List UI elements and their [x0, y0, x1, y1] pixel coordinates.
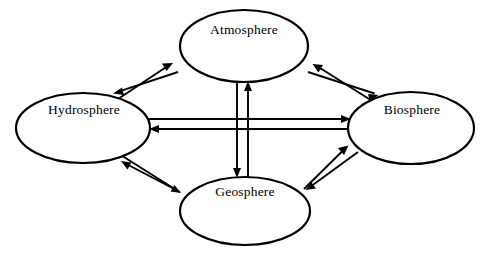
- connection-atmosphere-biosphere: [308, 64, 379, 104]
- node-hydrosphere[interactable]: Hydrosphere: [16, 93, 150, 163]
- arrow-geosphere-to-hydrosphere-head: [121, 161, 132, 170]
- node-hydrosphere-label: Hydrosphere: [48, 102, 120, 117]
- arrow-atmosphere-to-hydrosphere-head: [113, 88, 124, 96]
- node-atmosphere[interactable]: Atmosphere: [180, 10, 308, 82]
- diagram-canvas: Atmosphere Hydrosphere Biosphere Geosphe…: [0, 0, 490, 260]
- arrow-atmosphere-to-hydrosphere-line: [117, 72, 178, 92]
- connection-hydrosphere-biosphere: [148, 115, 351, 133]
- node-biosphere[interactable]: Biosphere: [348, 92, 474, 164]
- arrow-hydrosphere-to-geosphere-head: [171, 185, 182, 193]
- node-atmosphere-label: Atmosphere: [210, 22, 278, 37]
- arrow-biosphere-to-geosphere-line: [310, 152, 358, 187]
- connection-hydrosphere-atmosphere: [112, 63, 178, 103]
- spheres-diagram: Atmosphere Hydrosphere Biosphere Geosphe…: [0, 0, 490, 260]
- node-geosphere-label: Geosphere: [215, 184, 275, 199]
- arrow-hydrosphere-to-geosphere-line: [116, 152, 177, 191]
- connection-hydrosphere-geosphere: [116, 152, 181, 193]
- arrow-atmosphere-to-biosphere-line: [308, 72, 375, 94]
- arrow-geosphere-to-biosphere-line: [304, 149, 345, 189]
- node-geosphere[interactable]: Geosphere: [180, 177, 310, 245]
- node-atmosphere-ellipse[interactable]: [180, 10, 308, 82]
- connection-geosphere-biosphere: [304, 146, 358, 191]
- node-biosphere-label: Biosphere: [384, 102, 441, 117]
- node-group: Atmosphere Hydrosphere Biosphere Geosphe…: [16, 10, 474, 245]
